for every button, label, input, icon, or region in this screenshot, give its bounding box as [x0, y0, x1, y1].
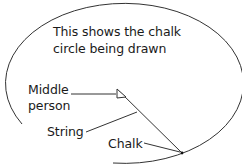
title-line-2: circle being drawn: [53, 41, 166, 57]
middle-person-label-line-2: person: [28, 98, 70, 113]
string-label: String: [47, 124, 84, 139]
middle-person-marker: [117, 89, 126, 98]
chalk-label: Chalk: [108, 136, 143, 151]
middle-person-label-line-1: Middle: [28, 82, 69, 97]
chalk-point: [181, 152, 184, 155]
chalk-leader: [144, 143, 180, 152]
string-leader: [86, 112, 137, 132]
title-line-1: This shows the chalk: [53, 24, 181, 40]
